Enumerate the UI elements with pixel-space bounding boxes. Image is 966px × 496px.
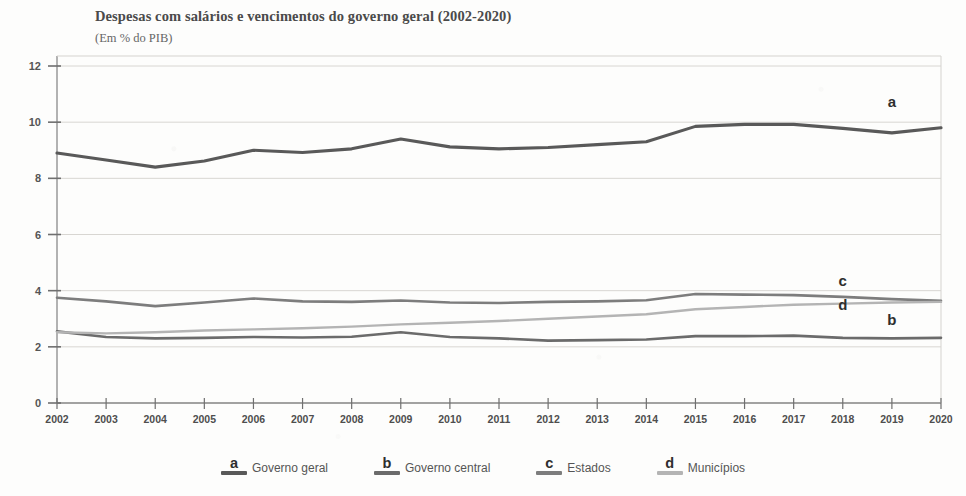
plot-area: 024681012 200220032004200520062007200820… bbox=[0, 0, 966, 496]
series-letter-c: c bbox=[839, 272, 847, 289]
x-tick-label: 2013 bbox=[586, 413, 610, 425]
legend-marker-d: d bbox=[657, 455, 683, 475]
x-tick-label: 2009 bbox=[389, 413, 413, 425]
legend-swatch-d bbox=[657, 471, 683, 475]
legend-marker-c: c bbox=[536, 455, 562, 475]
legend-letter-a: a bbox=[230, 458, 238, 469]
legend-letter-c: c bbox=[545, 458, 553, 469]
x-tick-label: 2016 bbox=[733, 413, 757, 425]
x-tick-label: 2020 bbox=[929, 413, 953, 425]
x-tick-label: 2018 bbox=[831, 413, 855, 425]
x-tick-label: 2006 bbox=[242, 413, 266, 425]
legend-swatch-a bbox=[221, 471, 247, 475]
legend-item-a[interactable]: aGoverno geral bbox=[221, 455, 328, 475]
y-tick-label: 0 bbox=[35, 397, 41, 409]
legend-letter-b: b bbox=[383, 458, 392, 469]
y-tick-label: 10 bbox=[29, 116, 41, 128]
series-letter-b: b bbox=[887, 311, 896, 328]
series-letter-a: a bbox=[888, 93, 897, 110]
x-tick-label: 2017 bbox=[782, 413, 806, 425]
y-tick-label: 4 bbox=[35, 285, 42, 297]
y-tick-label: 2 bbox=[35, 341, 41, 353]
legend-label-d: Municípios bbox=[688, 461, 745, 475]
x-tick-label: 2019 bbox=[880, 413, 904, 425]
legend-swatch-c bbox=[536, 471, 562, 475]
line-chart-svg: 024681012 200220032004200520062007200820… bbox=[0, 0, 966, 496]
series-line-b bbox=[57, 331, 941, 340]
x-tick-label: 2005 bbox=[193, 413, 217, 425]
y-tick-label: 12 bbox=[29, 60, 41, 72]
x-tick-label: 2012 bbox=[536, 413, 560, 425]
x-tick-label: 2014 bbox=[635, 413, 659, 425]
legend-label-c: Estados bbox=[567, 461, 610, 475]
x-tick-label: 2004 bbox=[144, 413, 168, 425]
y-tick-label: 6 bbox=[35, 229, 41, 241]
x-axis-ticks: 2002200320042005200620072008200920102011… bbox=[45, 398, 953, 425]
x-tick-label: 2007 bbox=[291, 413, 315, 425]
chart-page: Despesas com salários e vencimentos do g… bbox=[0, 0, 966, 496]
x-tick-label: 2002 bbox=[45, 413, 69, 425]
x-tick-label: 2015 bbox=[684, 413, 708, 425]
x-tick-label: 2003 bbox=[94, 413, 118, 425]
y-tick-label: 8 bbox=[35, 172, 41, 184]
series-line-a bbox=[57, 124, 941, 167]
series-letter-d: d bbox=[838, 296, 847, 313]
x-tick-label: 2008 bbox=[340, 413, 364, 425]
legend-item-b[interactable]: bGoverno central bbox=[374, 455, 490, 475]
chart-legend: aGoverno geralbGoverno centralcEstadosdM… bbox=[0, 448, 966, 482]
data-series bbox=[57, 124, 941, 340]
legend-letter-d: d bbox=[665, 458, 674, 469]
legend-item-d[interactable]: dMunicípios bbox=[657, 455, 745, 475]
legend-marker-b: b bbox=[374, 455, 400, 475]
legend-label-a: Governo geral bbox=[252, 461, 328, 475]
axes bbox=[57, 56, 941, 403]
series-line-d bbox=[57, 302, 941, 333]
gridlines bbox=[57, 66, 941, 403]
y-axis-ticks: 024681012 bbox=[29, 60, 61, 409]
legend-swatch-b bbox=[374, 471, 400, 475]
legend-label-b: Governo central bbox=[405, 461, 490, 475]
legend-marker-a: a bbox=[221, 455, 247, 475]
x-tick-label: 2010 bbox=[438, 413, 462, 425]
legend-item-c[interactable]: cEstados bbox=[536, 455, 610, 475]
x-tick-label: 2011 bbox=[488, 413, 511, 425]
